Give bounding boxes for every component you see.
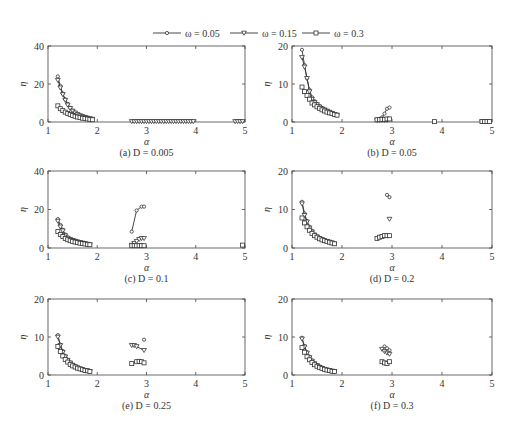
y-tick-label: 0 bbox=[283, 117, 288, 128]
plot-frame bbox=[48, 46, 245, 122]
x-tick-label: 3 bbox=[144, 125, 149, 136]
x-tick-label: 3 bbox=[144, 251, 149, 262]
x-tick-label: 2 bbox=[95, 378, 100, 389]
x-tick-label: 5 bbox=[490, 378, 495, 389]
y-tick-label: 20 bbox=[34, 79, 44, 90]
square-marker bbox=[303, 221, 307, 225]
triangle-down-marker bbox=[60, 93, 65, 97]
square-marker bbox=[488, 120, 492, 124]
legend-item: ω = 0.3 bbox=[302, 28, 364, 39]
x-tick-label: 1 bbox=[46, 125, 51, 136]
y-axis-label: η bbox=[261, 81, 272, 86]
y-tick-label: 0 bbox=[39, 117, 44, 128]
series-circle bbox=[56, 334, 145, 373]
panel-caption: (d) D = 0.2 bbox=[370, 273, 415, 285]
x-tick-label: 2 bbox=[340, 378, 345, 389]
x-tick-label: 2 bbox=[340, 251, 345, 262]
panel-caption: (c) D = 0.1 bbox=[125, 273, 169, 285]
y-tick-label: 10 bbox=[34, 332, 44, 343]
circle-marker bbox=[142, 205, 145, 208]
y-tick-label: 20 bbox=[34, 294, 44, 305]
y-tick-label: 20 bbox=[278, 294, 288, 305]
panel-caption: (f) D = 0.3 bbox=[371, 400, 414, 412]
square-marker bbox=[388, 360, 392, 364]
x-tick-label: 3 bbox=[390, 251, 395, 262]
series-square bbox=[56, 230, 245, 248]
x-axis-label: α bbox=[144, 262, 150, 273]
x-axis-label: α bbox=[144, 136, 150, 147]
y-tick-label: 10 bbox=[278, 79, 288, 90]
square-marker bbox=[90, 118, 94, 122]
x-tick-label: 3 bbox=[390, 378, 395, 389]
square-marker bbox=[300, 216, 304, 220]
series-line bbox=[302, 87, 490, 122]
legend-circle-marker bbox=[165, 31, 168, 34]
x-tick-label: 4 bbox=[193, 251, 198, 262]
circle-marker bbox=[130, 230, 133, 233]
square-marker bbox=[335, 113, 339, 117]
x-tick-label: 2 bbox=[340, 125, 345, 136]
triangle-down-marker bbox=[55, 335, 60, 339]
series-line bbox=[302, 50, 390, 120]
chart-panel: 1234501020αη(e) D = 0.25 bbox=[17, 294, 248, 413]
x-tick-label: 2 bbox=[95, 251, 100, 262]
x-tick-label: 3 bbox=[144, 378, 149, 389]
legend-label: ω = 0.15 bbox=[262, 28, 297, 39]
series-square bbox=[300, 85, 492, 124]
triangle-down-marker bbox=[142, 349, 147, 353]
x-tick-label: 5 bbox=[243, 125, 248, 136]
chart-panel: 1234501020αη(f) D = 0.3 bbox=[261, 294, 495, 413]
triangle-down-marker bbox=[58, 86, 63, 90]
triangle-down-marker bbox=[387, 217, 392, 221]
x-tick-label: 1 bbox=[290, 378, 295, 389]
square-marker bbox=[333, 370, 337, 374]
square-marker bbox=[142, 361, 146, 365]
triangle-down-marker bbox=[302, 65, 307, 69]
square-marker bbox=[56, 345, 60, 349]
triangle-down-marker bbox=[300, 202, 305, 206]
x-tick-label: 3 bbox=[390, 125, 395, 136]
series-triangle-down bbox=[55, 335, 146, 374]
square-marker bbox=[433, 120, 437, 124]
chart-panel: 1234501020αη(d) D = 0.2 bbox=[261, 166, 495, 286]
y-tick-label: 20 bbox=[278, 41, 288, 52]
legend-square-marker bbox=[314, 31, 318, 35]
legend-label: ω = 0.3 bbox=[334, 28, 364, 39]
figure: ω = 0.05ω = 0.15ω = 0.3 1234502040αη(a) … bbox=[0, 0, 515, 433]
chart-panel: 1234501020αη(b) D = 0.05 bbox=[261, 41, 495, 160]
x-axis-label: α bbox=[389, 262, 395, 273]
square-marker bbox=[308, 97, 312, 101]
square-marker bbox=[303, 350, 307, 354]
x-tick-label: 5 bbox=[243, 251, 248, 262]
x-tick-label: 1 bbox=[290, 251, 295, 262]
square-marker bbox=[388, 117, 392, 121]
plot-frame bbox=[48, 299, 245, 375]
x-tick-label: 1 bbox=[290, 125, 295, 136]
y-axis-label: η bbox=[261, 334, 272, 339]
y-tick-label: 0 bbox=[39, 243, 44, 254]
x-tick-label: 1 bbox=[46, 251, 51, 262]
circle-marker bbox=[388, 106, 391, 109]
circle-marker bbox=[135, 209, 138, 212]
x-tick-label: 4 bbox=[440, 125, 445, 136]
chart-panel: 1234502040αη(c) D = 0.1 bbox=[17, 166, 248, 286]
square-marker bbox=[130, 362, 134, 366]
circle-marker bbox=[388, 196, 391, 199]
panels: 1234502040αη(a) D = 0.0051234501020αη(b)… bbox=[17, 41, 495, 413]
y-tick-label: 0 bbox=[283, 370, 288, 381]
panel-caption: (e) D = 0.25 bbox=[122, 400, 171, 412]
panel-caption: (b) D = 0.05 bbox=[367, 147, 417, 159]
y-tick-label: 40 bbox=[34, 166, 44, 177]
x-tick-label: 5 bbox=[490, 251, 495, 262]
y-axis-label: η bbox=[261, 207, 272, 212]
series-triangle-down bbox=[300, 337, 392, 374]
series-circle bbox=[300, 48, 391, 121]
legend: ω = 0.05ω = 0.15ω = 0.3 bbox=[153, 28, 364, 39]
panel-caption: (a) D = 0.005 bbox=[120, 147, 174, 159]
y-tick-label: 10 bbox=[278, 204, 288, 215]
y-axis-label: η bbox=[17, 334, 28, 339]
x-tick-label: 4 bbox=[440, 251, 445, 262]
square-marker bbox=[58, 349, 62, 353]
x-tick-label: 4 bbox=[193, 125, 198, 136]
legend-item: ω = 0.05 bbox=[153, 28, 220, 39]
